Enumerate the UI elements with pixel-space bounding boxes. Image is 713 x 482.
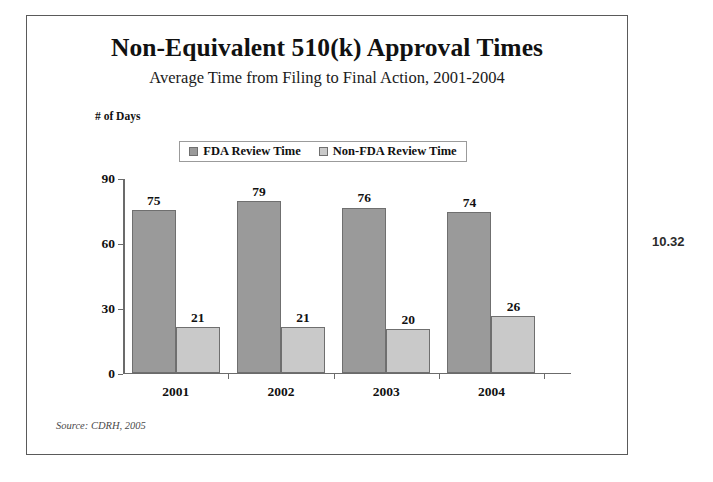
bar-value-label: 26: [507, 299, 521, 315]
legend-item-label: Non-FDA Review Time: [333, 144, 457, 159]
x-tick-mark: [334, 374, 335, 379]
y-axis-line: [123, 179, 125, 374]
figure-frame: Non-Equivalent 510(k) Approval Times Ave…: [26, 15, 628, 455]
bar: [447, 212, 491, 372]
y-tick-label: 60: [102, 236, 116, 252]
x-category-label: 2002: [267, 384, 294, 400]
x-tick-mark: [228, 374, 229, 379]
bar-value-label: 21: [191, 310, 205, 326]
bar: [386, 329, 430, 372]
bar-value-label: 21: [296, 310, 310, 326]
legend-swatch-icon: [189, 147, 198, 156]
chart-title: Non-Equivalent 510(k) Approval Times: [27, 33, 627, 63]
bar: [132, 210, 176, 373]
bar-value-label: 74: [463, 195, 477, 211]
x-tick-mark: [544, 374, 545, 379]
x-axis-line: [123, 373, 571, 375]
x-category-label: 2001: [162, 384, 189, 400]
legend-swatch-icon: [319, 147, 328, 156]
bar-value-label: 20: [401, 312, 415, 328]
page-number: 10.32: [652, 234, 685, 249]
bar-value-label: 79: [252, 184, 266, 200]
chart-legend: FDA Review Time Non-FDA Review Time: [179, 141, 467, 162]
chart-subtitle: Average Time from Filing to Final Action…: [27, 68, 627, 88]
y-tick-mark: [118, 374, 123, 375]
y-tick-label: 0: [108, 366, 115, 382]
source-note: Source: CDRH, 2005: [56, 420, 146, 431]
bar-value-label: 76: [357, 190, 371, 206]
x-category-label: 2004: [478, 384, 505, 400]
bar: [491, 316, 535, 372]
y-axis-title: # of Days: [95, 110, 140, 122]
legend-item-non-fda-review-time[interactable]: Non-FDA Review Time: [319, 144, 457, 159]
y-tick-mark: [118, 179, 123, 180]
x-tick-mark: [439, 374, 440, 379]
plot-area: 0306090 7521792176207426 200120022003200…: [123, 179, 571, 374]
y-tick-label: 30: [102, 301, 116, 317]
legend-item-label: FDA Review Time: [203, 144, 300, 159]
bar: [342, 208, 386, 373]
bar: [237, 201, 281, 372]
y-tick-label: 90: [102, 171, 116, 187]
y-tick-mark: [118, 309, 123, 310]
legend-item-fda-review-time[interactable]: FDA Review Time: [189, 144, 300, 159]
bar: [281, 327, 325, 373]
y-tick-mark: [118, 244, 123, 245]
bar: [176, 327, 220, 373]
x-category-label: 2003: [373, 384, 400, 400]
bar-value-label: 75: [147, 193, 161, 209]
